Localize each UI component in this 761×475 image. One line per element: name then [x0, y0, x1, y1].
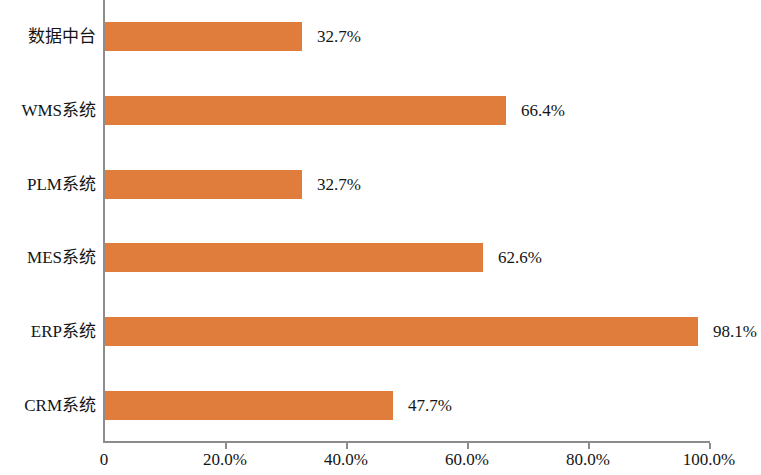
- x-axis-tick: [588, 443, 590, 449]
- x-axis-tick: [225, 443, 227, 449]
- bar-value-label: 98.1%: [713, 323, 757, 340]
- value-axis-line: [103, 0, 105, 443]
- category-label: ERP系统: [0, 323, 96, 340]
- category-label: MES系统: [0, 249, 96, 266]
- bar[interactable]: [104, 391, 393, 420]
- bar-value-label: 32.7%: [317, 28, 361, 45]
- x-axis-tick-label: 80.0%: [566, 451, 610, 468]
- bar-row: 62.6%MES系统: [0, 243, 761, 272]
- category-label: CRM系统: [0, 397, 96, 414]
- bar-row: 32.7%数据中台: [0, 22, 761, 51]
- bar-row: 32.7%PLM系统: [0, 170, 761, 199]
- x-axis-tick: [467, 443, 469, 449]
- bar[interactable]: [104, 22, 302, 51]
- x-axis-tick-label: 40.0%: [324, 451, 368, 468]
- bar-value-label: 62.6%: [498, 249, 542, 266]
- x-axis-tick-label: 0: [100, 451, 109, 468]
- bar[interactable]: [104, 317, 698, 346]
- x-axis-tick: [346, 443, 348, 449]
- bar-value-label: 47.7%: [408, 397, 452, 414]
- x-axis-tick-label: 60.0%: [445, 451, 489, 468]
- bar[interactable]: [104, 243, 483, 272]
- bar[interactable]: [104, 96, 506, 125]
- x-axis-tick: [709, 443, 711, 449]
- category-label: PLM系统: [0, 176, 96, 193]
- x-axis-tick-label: 20.0%: [203, 451, 247, 468]
- bar[interactable]: [104, 170, 302, 199]
- category-label: 数据中台: [0, 28, 96, 45]
- bar-value-label: 32.7%: [317, 176, 361, 193]
- category-axis-line: [103, 441, 710, 443]
- category-label: WMS系统: [0, 102, 96, 119]
- x-axis-tick-label: 100.0%: [683, 451, 735, 468]
- bar-value-label: 66.4%: [521, 102, 565, 119]
- bar-row: 66.4%WMS系统: [0, 96, 761, 125]
- bar-row: 98.1%ERP系统: [0, 317, 761, 346]
- bar-row: 47.7%CRM系统: [0, 391, 761, 420]
- bar-chart: 32.7%数据中台66.4%WMS系统32.7%PLM系统62.6%MES系统9…: [0, 0, 761, 475]
